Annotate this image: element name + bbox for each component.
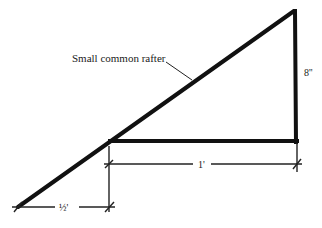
rise-line — [295, 11, 296, 142]
rafter-leader-line — [166, 62, 192, 80]
run-label: 1' — [198, 159, 205, 170]
overhang-label: ½' — [59, 202, 69, 213]
rafter-label: Small common rafter — [72, 52, 166, 64]
rafter-diagram: Small common rafter 8'' 1' ½' — [0, 0, 322, 228]
rafter-line — [18, 11, 294, 207]
rise-label: 8'' — [304, 67, 313, 78]
